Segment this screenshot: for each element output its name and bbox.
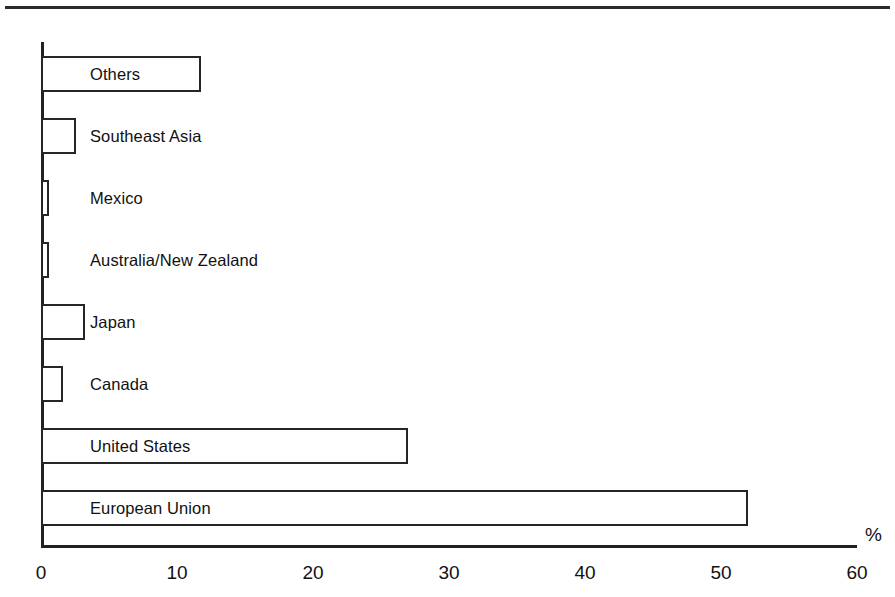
- bar-label: Canada: [90, 376, 148, 393]
- x-tick-label: 0: [36, 563, 47, 582]
- bar-label: Others: [90, 66, 140, 83]
- bar-japan: [41, 304, 85, 340]
- x-tick-label: 50: [710, 563, 731, 582]
- bar-canada: [41, 366, 63, 402]
- bar-australia-new-zealand: [41, 242, 49, 278]
- x-tick-label: 40: [574, 563, 595, 582]
- bar-southeast-asia: [41, 118, 76, 154]
- x-tick-label: 20: [302, 563, 323, 582]
- x-tick-label: 60: [846, 563, 867, 582]
- bar-label: United States: [90, 438, 190, 455]
- bar-label: Mexico: [90, 190, 143, 207]
- x-axis-unit-label: %: [865, 525, 882, 544]
- bar-label: Southeast Asia: [90, 128, 201, 145]
- x-tick-label: 10: [166, 563, 187, 582]
- bar-label: Japan: [90, 314, 135, 331]
- bar-label: European Union: [90, 500, 211, 517]
- x-axis-line: [41, 545, 857, 548]
- bar-mexico: [41, 180, 49, 216]
- x-tick-label: 30: [438, 563, 459, 582]
- bar-label: Australia/New Zealand: [90, 252, 258, 269]
- bar-chart-plot: % OthersSoutheast AsiaMexicoAustralia/Ne…: [0, 0, 895, 597]
- chart-figure: % OthersSoutheast AsiaMexicoAustralia/Ne…: [0, 0, 895, 597]
